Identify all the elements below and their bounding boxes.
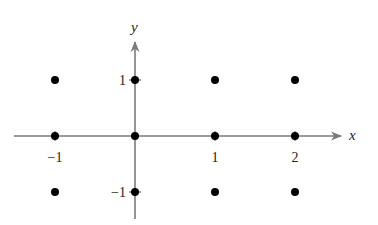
- data-point: [211, 76, 219, 84]
- y-tick-label: 1: [119, 73, 126, 88]
- data-point: [211, 132, 219, 140]
- y-axis-label: y: [129, 19, 138, 35]
- x-tick-label: 2: [292, 150, 299, 165]
- data-point: [131, 76, 139, 84]
- axis-labels: x y: [129, 19, 356, 143]
- x-tick-label: 1: [212, 150, 219, 165]
- coordinate-plane: x y −1121−1: [0, 0, 378, 225]
- x-axis-label: x: [348, 127, 356, 143]
- data-point: [51, 132, 59, 140]
- data-point: [291, 76, 299, 84]
- data-point: [211, 188, 219, 196]
- data-point: [51, 188, 59, 196]
- data-point: [131, 188, 139, 196]
- data-point: [51, 76, 59, 84]
- y-tick-label: −1: [111, 185, 126, 200]
- data-point: [131, 132, 139, 140]
- x-tick-label: −1: [48, 150, 63, 165]
- data-point: [291, 132, 299, 140]
- data-point: [291, 188, 299, 196]
